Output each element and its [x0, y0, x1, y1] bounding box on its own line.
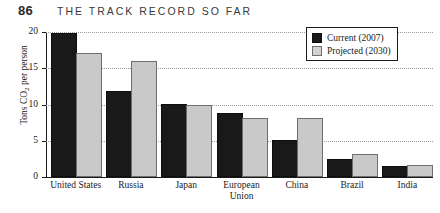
bar-current — [382, 166, 408, 177]
bar-projected — [131, 61, 157, 177]
bar-projected — [297, 118, 323, 177]
running-head-title: THE TRACK RECORD SO FAR — [57, 5, 252, 17]
bar-current — [327, 159, 353, 177]
y-tick-label: 15 — [8, 63, 38, 73]
y-tick-label: 20 — [8, 27, 38, 37]
y-tick-label: 5 — [8, 136, 38, 146]
y-tick-label: 10 — [8, 100, 38, 110]
bar-current — [106, 91, 132, 177]
running-head: 86 THE TRACK RECORD SO FAR — [0, 0, 440, 24]
chart-legend: Current (2007) Projected (2030) — [306, 27, 398, 61]
bar-projected — [352, 154, 378, 177]
legend-swatch-projected-icon — [312, 46, 322, 56]
bar-group — [106, 32, 156, 177]
bar-projected — [407, 165, 433, 177]
legend-label-current: Current (2007) — [327, 33, 384, 43]
bar-projected — [242, 118, 268, 177]
bar-group — [51, 32, 101, 177]
bar-projected — [186, 105, 212, 177]
legend-item-current: Current (2007) — [312, 31, 391, 44]
legend-item-projected: Projected (2030) — [312, 44, 391, 57]
bar-current — [272, 140, 298, 177]
bar-projected — [76, 53, 102, 177]
bar-group — [217, 32, 267, 177]
y-tick-mark — [42, 177, 46, 178]
x-category-label: India — [364, 180, 440, 191]
legend-swatch-current-icon — [312, 33, 322, 43]
bar-group — [161, 32, 211, 177]
legend-label-projected: Projected (2030) — [327, 46, 391, 56]
bar-current — [217, 113, 243, 177]
bar-chart-figure: Tons CO2 per person 05101520 United Stat… — [0, 24, 440, 213]
bar-current — [51, 33, 77, 177]
bar-current — [161, 104, 187, 177]
x-axis-line — [46, 177, 433, 178]
